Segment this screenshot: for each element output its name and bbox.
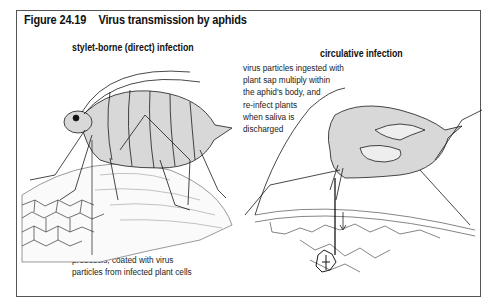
plant-tissue	[255, 209, 475, 272]
aphid-section-body	[328, 106, 462, 178]
aphid-circulative-infection-illustration	[0, 0, 490, 307]
